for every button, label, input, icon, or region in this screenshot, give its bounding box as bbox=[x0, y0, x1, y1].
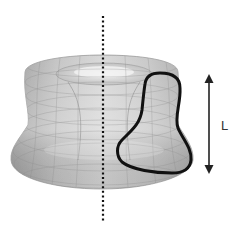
dimension-label-L: L bbox=[221, 118, 228, 133]
arrow-head-up-icon bbox=[205, 74, 214, 83]
torus-surface bbox=[0, 50, 240, 195]
arrow-head-down-icon bbox=[205, 165, 214, 174]
toroidal-surface-diagram: L bbox=[0, 0, 240, 235]
dimension-arrow-L: L bbox=[205, 74, 229, 174]
